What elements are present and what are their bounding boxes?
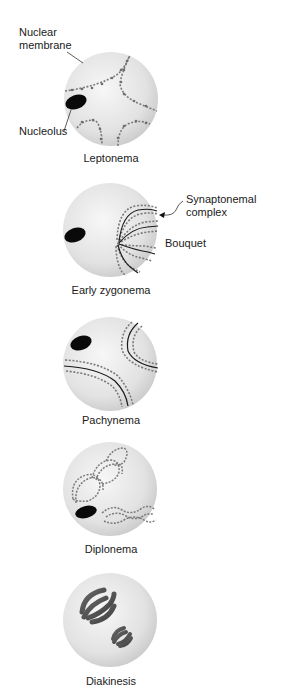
diplonema-nucleus bbox=[63, 442, 157, 536]
early-zygonema-nucleus bbox=[62, 183, 158, 277]
stage-label-diakinesis: Diakinesis bbox=[51, 675, 171, 688]
diagram-svg bbox=[0, 0, 294, 689]
nucleolus-label: Nucleolus bbox=[19, 125, 67, 138]
synaptonemal-label-line2: complex bbox=[186, 206, 256, 219]
synaptonemal-complex-label: Synaptonemal complex bbox=[186, 193, 256, 219]
stage-label-leptonema: Leptonema bbox=[51, 152, 171, 165]
synaptonemal-label-line1: Synaptonemal bbox=[186, 193, 256, 206]
nuclear-membrane-label-line2: membrane bbox=[19, 39, 72, 52]
diakinesis-nucleus bbox=[63, 573, 157, 667]
nuclear-membrane-label: Nuclear membrane bbox=[19, 26, 72, 52]
arrowhead-icon bbox=[159, 212, 165, 218]
pachynema-nucleus bbox=[63, 317, 158, 411]
meiosis-prophase-diagram: Nuclear membrane Nucleolus Synaptonemal … bbox=[0, 0, 294, 689]
synaptonemal-pointer bbox=[163, 201, 183, 215]
stage-label-pachynema: Pachynema bbox=[51, 414, 171, 427]
nuclear-membrane-pointer bbox=[67, 52, 83, 63]
stage-label-diplonema: Diplonema bbox=[51, 543, 171, 556]
stage-label-early-zygonema: Early zygonema bbox=[51, 284, 171, 297]
nuclear-membrane-label-line1: Nuclear bbox=[19, 26, 72, 39]
bouquet-label: Bouquet bbox=[165, 237, 206, 250]
nucleus-circle bbox=[63, 573, 157, 667]
leptonema-nucleus bbox=[63, 52, 158, 146]
